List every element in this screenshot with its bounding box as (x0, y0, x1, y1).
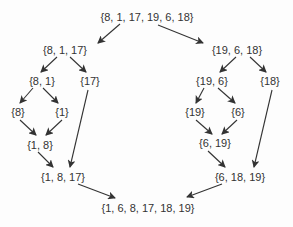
arrow-icon-left-to-l2 (70, 57, 86, 72)
set-node-root: {8, 1, 17, 19, 6, 18} (101, 12, 194, 23)
set-node-l1a: {8} (11, 107, 24, 118)
arrow-icon-root-to-right (158, 25, 203, 43)
arrow-icon-right-to-r2 (250, 57, 266, 72)
set-node-left: {8, 1, 17} (43, 45, 87, 56)
set-node-result: {1, 6, 8, 17, 18, 19} (102, 203, 195, 214)
arrow-icon-lm2-to-result (78, 184, 115, 198)
set-node-r1b: {6} (231, 107, 244, 118)
set-node-rm2: {6, 18, 19} (215, 172, 265, 183)
arrow-icon-l2-to-lm2 (70, 90, 88, 167)
arrow-icon-rm1-to-rm2 (208, 151, 225, 167)
set-node-lm1: {1, 8} (27, 140, 53, 151)
arrow-icon-l1a-to-lm1 (20, 120, 36, 135)
set-node-l1b: {1} (55, 107, 68, 118)
arrow-icon-lm1-to-lm2 (38, 152, 53, 167)
set-node-l2: {17} (80, 76, 100, 87)
arrow-icon-left-to-l1 (41, 57, 57, 72)
arrow-icon-rm2-to-result (187, 184, 222, 197)
set-node-r1: {19, 6} (196, 76, 228, 87)
arrow-icon-l1b-to-lm1 (46, 120, 62, 135)
arrow-icon-r1b-to-rm1 (222, 120, 237, 134)
set-node-rm1: {6, 19} (199, 138, 231, 149)
arrow-icon-l1-to-l1a (20, 88, 33, 103)
set-node-r1a: {19} (185, 107, 205, 118)
set-node-r2: {18} (260, 76, 280, 87)
arrow-icon-r1-to-r1a (196, 88, 204, 103)
arrow-icon-r2-to-rm2 (254, 90, 272, 167)
arrow-icon-l1-to-l1b (43, 88, 58, 103)
arrow-icon-right-to-r1 (220, 57, 236, 72)
arrow-icon-r1-to-r1b (218, 88, 235, 103)
edges-layer (0, 0, 293, 227)
set-node-lm2: {1, 8, 17} (41, 172, 85, 183)
arrow-icon-r1a-to-rm1 (196, 120, 212, 134)
set-node-right: {19, 6, 18} (212, 45, 262, 56)
set-node-l1: {8, 1} (29, 76, 55, 87)
arrow-icon-root-to-left (98, 24, 120, 43)
merge-sort-diagram: {8, 1, 17, 19, 6, 18}{8, 1, 17}{19, 6, 1… (0, 0, 293, 227)
